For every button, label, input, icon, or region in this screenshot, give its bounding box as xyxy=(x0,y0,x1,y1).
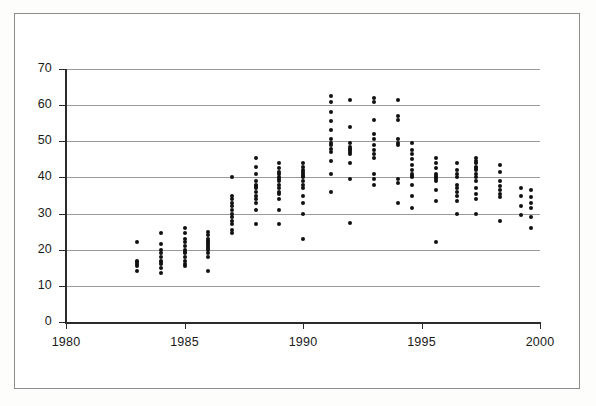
data-point xyxy=(410,157,414,161)
x-tick-1995 xyxy=(422,322,423,329)
y-tick-label-50: 50 xyxy=(18,133,52,147)
gridline-y-60 xyxy=(66,105,540,106)
y-tick-label-10: 10 xyxy=(18,278,52,292)
data-point xyxy=(529,188,533,192)
data-point xyxy=(410,141,414,145)
data-point xyxy=(396,98,400,102)
data-point xyxy=(159,266,163,270)
data-point xyxy=(455,199,459,203)
x-tick-1985 xyxy=(185,322,186,329)
x-tick-1980 xyxy=(66,322,67,329)
data-point xyxy=(183,264,187,268)
data-point xyxy=(277,192,281,196)
data-point xyxy=(301,194,305,198)
data-point xyxy=(529,226,533,230)
data-point xyxy=(455,212,459,216)
data-point xyxy=(396,143,400,147)
data-point xyxy=(410,163,414,167)
data-point xyxy=(410,206,414,210)
data-point xyxy=(498,179,502,183)
y-tick-10 xyxy=(59,286,65,287)
data-point xyxy=(159,271,163,275)
data-point xyxy=(498,195,502,199)
x-tick-label-1980: 1980 xyxy=(42,335,90,349)
data-point xyxy=(277,161,281,165)
data-point xyxy=(474,179,478,183)
data-point xyxy=(230,175,234,179)
data-point xyxy=(434,161,438,165)
data-point xyxy=(301,186,305,190)
y-tick-label-20: 20 xyxy=(18,242,52,256)
data-point xyxy=(519,213,523,217)
data-point xyxy=(455,194,459,198)
y-tick-60 xyxy=(59,105,65,106)
data-point xyxy=(410,183,414,187)
data-point xyxy=(254,165,258,169)
data-point xyxy=(396,201,400,205)
y-tick-label-60: 60 xyxy=(18,97,52,111)
data-point xyxy=(329,150,333,154)
data-point xyxy=(434,188,438,192)
data-point xyxy=(135,269,139,273)
y-tick-40 xyxy=(59,177,65,178)
data-point xyxy=(455,175,459,179)
data-point xyxy=(474,186,478,190)
data-point xyxy=(329,190,333,194)
data-point xyxy=(254,201,258,205)
data-point xyxy=(329,110,333,114)
data-point xyxy=(348,221,352,225)
x-tick-label-1995: 1995 xyxy=(398,335,446,349)
y-tick-label-30: 30 xyxy=(18,206,52,220)
data-point xyxy=(159,231,163,235)
gridline-y-10 xyxy=(66,286,540,287)
data-point xyxy=(410,194,414,198)
y-tick-50 xyxy=(59,141,65,142)
data-point xyxy=(410,152,414,156)
data-point xyxy=(329,128,333,132)
chart-figure: 010203040506070 19801985199019952000 xyxy=(0,0,596,406)
y-tick-70 xyxy=(59,69,65,70)
data-point xyxy=(329,100,333,104)
data-point xyxy=(434,199,438,203)
data-point xyxy=(372,183,376,187)
data-point xyxy=(519,204,523,208)
data-point xyxy=(348,177,352,181)
data-point xyxy=(206,269,210,273)
data-point xyxy=(329,172,333,176)
data-point xyxy=(254,156,258,160)
data-point xyxy=(254,172,258,176)
data-point xyxy=(410,175,414,179)
data-point xyxy=(372,143,376,147)
scatter-plot-area: 010203040506070 19801985199019952000 xyxy=(0,0,596,406)
gridline-y-20 xyxy=(66,250,540,251)
data-point xyxy=(135,264,139,268)
data-point xyxy=(372,132,376,136)
y-tick-30 xyxy=(59,214,65,215)
data-point xyxy=(329,159,333,163)
data-point xyxy=(529,201,533,205)
data-point xyxy=(348,161,352,165)
data-point xyxy=(498,163,502,167)
data-point xyxy=(301,212,305,216)
y-axis-line xyxy=(65,69,67,324)
data-point xyxy=(474,197,478,201)
data-point xyxy=(434,240,438,244)
data-point xyxy=(159,242,163,246)
data-point xyxy=(348,125,352,129)
data-point xyxy=(183,231,187,235)
data-point xyxy=(329,94,333,98)
x-tick-label-1990: 1990 xyxy=(279,335,327,349)
data-point xyxy=(519,194,523,198)
data-point xyxy=(529,206,533,210)
y-tick-20 xyxy=(59,250,65,251)
data-point xyxy=(348,152,352,156)
x-tick-2000 xyxy=(540,322,541,329)
data-point xyxy=(474,212,478,216)
data-point xyxy=(277,222,281,226)
data-point xyxy=(434,156,438,160)
data-point xyxy=(519,186,523,190)
data-point xyxy=(254,222,258,226)
data-point xyxy=(329,119,333,123)
data-point xyxy=(498,170,502,174)
data-point xyxy=(206,255,210,259)
